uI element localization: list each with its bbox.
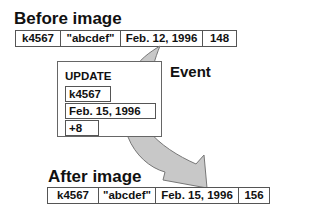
after-cell-number: 156 [239,188,269,203]
update-field-date: Feb. 15, 1996 [65,103,156,119]
event-label: Event [170,63,211,80]
after-cell-string: "abcdef" [99,188,156,203]
update-event-box: UPDATE k4567 Feb. 15, 1996 +8 [57,61,162,137]
after-image-row: k4567 "abcdef" Feb. 15, 1996 156 [47,187,270,204]
after-image-heading: After image [48,168,142,186]
after-cell-key: k4567 [48,188,99,203]
update-field-delta: +8 [65,120,99,136]
update-title: UPDATE [65,70,111,82]
update-field-key: k4567 [65,86,111,102]
after-cell-date: Feb. 15, 1996 [156,188,239,203]
